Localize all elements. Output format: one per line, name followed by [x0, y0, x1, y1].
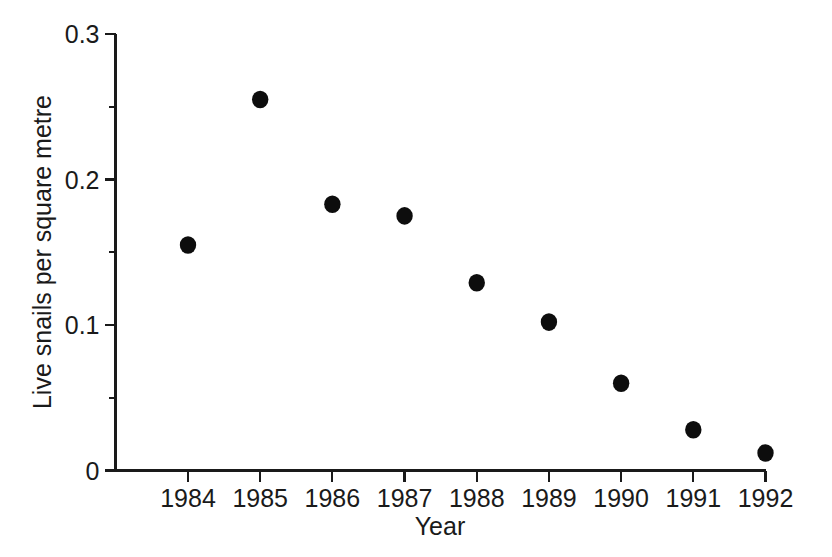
- x-axis-major-ticks: [188, 471, 766, 482]
- plot-area: [0, 0, 832, 557]
- x-tick-label: 1984: [160, 486, 216, 511]
- y-axis-title: Live snails per square metre: [22, 34, 62, 470]
- x-tick-label: 1986: [305, 486, 361, 511]
- scatter-chart-figure: 00.10.20.3 19841985198619871988198919901…: [0, 0, 832, 557]
- x-tick-label: 1991: [666, 486, 722, 511]
- x-tick-label: 1990: [593, 486, 649, 511]
- data-point-group: [180, 91, 774, 462]
- x-tick-label: 1987: [377, 486, 433, 511]
- data-point: [613, 374, 629, 392]
- data-point: [541, 313, 557, 331]
- data-point: [757, 444, 773, 462]
- data-point: [685, 421, 701, 439]
- x-tick-label: 1989: [521, 486, 577, 511]
- x-tick-label: 1985: [232, 486, 288, 511]
- data-point: [469, 274, 485, 292]
- data-point: [180, 236, 196, 254]
- x-axis-title: Year: [115, 512, 765, 541]
- data-point: [396, 207, 412, 225]
- x-tick-label: 1988: [449, 486, 505, 511]
- data-point: [252, 91, 268, 109]
- x-tick-label: 1992: [738, 486, 794, 511]
- data-point: [324, 195, 340, 213]
